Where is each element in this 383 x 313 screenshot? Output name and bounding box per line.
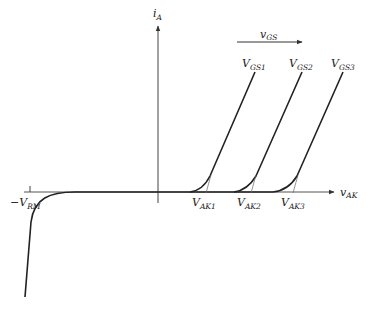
vgs3-label: VGS3 bbox=[331, 57, 355, 72]
vgs1-label: VGS1 bbox=[242, 57, 266, 72]
vak2-label: VAK2 bbox=[237, 196, 261, 211]
vgs-arrow-label: vGS bbox=[260, 28, 277, 42]
vgs2-label: VGS2 bbox=[289, 57, 313, 72]
vak2-dash bbox=[251, 175, 256, 193]
vrm-label: −VRM bbox=[10, 196, 41, 211]
curve-vgs3 bbox=[273, 72, 343, 192]
iv-characteristic-diagram: iA vAK vGS −VRM VGS1 VGS2 VGS3 VAK1 VAK2… bbox=[0, 0, 383, 313]
vak3-label: VAK3 bbox=[281, 196, 305, 211]
curve-vgs2 bbox=[234, 72, 302, 192]
vak1-label: VAK1 bbox=[192, 196, 216, 211]
y-axis-label: iA bbox=[153, 7, 163, 22]
x-axis-label: vAK bbox=[340, 186, 358, 200]
curve-vgs1 bbox=[190, 72, 255, 192]
